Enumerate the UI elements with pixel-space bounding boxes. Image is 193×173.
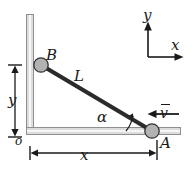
velocity-symbol: v (160, 105, 168, 121)
label-velocity: v (160, 104, 170, 120)
label-axis-x: x (171, 38, 179, 53)
dimension-x (30, 140, 157, 160)
physics-diagram-rod-slider: B L A o y x α y x v (0, 0, 193, 173)
label-rod-length: L (74, 69, 84, 84)
label-point-b: B (46, 48, 57, 63)
slider-a (145, 124, 159, 138)
label-dimension-x: x (80, 148, 88, 163)
label-point-a: A (160, 136, 171, 151)
label-angle-alpha: α (97, 110, 107, 125)
label-origin: o (15, 135, 22, 147)
label-axis-y: y (143, 8, 151, 23)
label-dimension-y: y (8, 93, 16, 108)
